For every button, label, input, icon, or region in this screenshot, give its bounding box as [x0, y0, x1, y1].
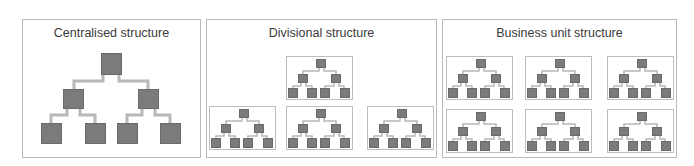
node-leaf [609, 141, 619, 151]
node-leaf [500, 141, 510, 151]
node-mid [652, 74, 662, 83]
node-top [101, 53, 122, 75]
node-leaf [307, 88, 317, 98]
node-leaf [467, 88, 477, 98]
node-mid [254, 124, 264, 133]
business-unit [525, 109, 592, 153]
node-mid [458, 127, 468, 136]
node-leaf [500, 88, 510, 98]
divisional-panel: Divisional structure [206, 19, 437, 158]
division-unit [209, 106, 276, 150]
division-unit [367, 106, 434, 150]
node-mid [221, 124, 231, 133]
node-leaf [546, 88, 556, 98]
node-top [316, 109, 326, 118]
business-unit [607, 56, 674, 100]
node-leaf [160, 123, 181, 144]
node-leaf [467, 141, 477, 151]
node-top [555, 112, 565, 121]
division-unit [286, 56, 353, 100]
centralised-panel: Centralised structure [22, 19, 201, 158]
business-unit-panel: Business unit structure [442, 19, 677, 158]
node-mid [570, 74, 580, 83]
node-top [316, 59, 326, 68]
node-top [637, 59, 647, 68]
node-mid-left [63, 89, 84, 109]
node-leaf [480, 141, 490, 151]
node-leaf [579, 88, 589, 98]
node-mid [619, 74, 629, 83]
node-mid [619, 127, 629, 136]
node-mid [537, 127, 547, 136]
division-unit [286, 106, 353, 150]
node-leaf [211, 138, 221, 148]
business-unit [446, 109, 513, 153]
business-unit [446, 56, 513, 100]
node-leaf [320, 88, 330, 98]
node-leaf [320, 138, 330, 148]
node-leaf [340, 88, 350, 98]
node-leaf [230, 138, 240, 148]
node-leaf [401, 138, 411, 148]
node-leaf [628, 88, 638, 98]
node-leaf [85, 123, 106, 144]
node-leaf [41, 123, 62, 144]
node-mid [331, 74, 341, 83]
node-leaf [340, 138, 350, 148]
node-leaf [243, 138, 253, 148]
node-mid [331, 124, 341, 133]
node-leaf [307, 138, 317, 148]
node-mid [570, 127, 580, 136]
panel-title: Divisional structure [207, 26, 436, 40]
node-leaf [579, 141, 589, 151]
node-leaf [641, 88, 651, 98]
node-leaf [448, 141, 458, 151]
node-leaf [117, 123, 138, 144]
node-leaf [288, 88, 298, 98]
node-leaf [559, 141, 569, 151]
node-top [476, 59, 486, 68]
node-leaf [263, 138, 273, 148]
node-leaf [546, 141, 556, 151]
node-mid [379, 124, 389, 133]
node-top [239, 109, 249, 118]
node-leaf [559, 88, 569, 98]
node-mid [412, 124, 422, 133]
node-leaf [369, 138, 379, 148]
node-top [397, 109, 407, 118]
node-mid [491, 127, 501, 136]
business-unit [525, 56, 592, 100]
node-leaf [609, 88, 619, 98]
node-leaf [641, 141, 651, 151]
node-mid [458, 74, 468, 83]
node-leaf [480, 88, 490, 98]
node-top [637, 112, 647, 121]
node-mid [491, 74, 501, 83]
node-leaf [628, 141, 638, 151]
node-leaf [527, 88, 537, 98]
node-leaf [421, 138, 431, 148]
node-leaf [661, 141, 671, 151]
node-mid [652, 127, 662, 136]
node-top [555, 59, 565, 68]
node-mid-right [138, 89, 159, 109]
node-mid [537, 74, 547, 83]
node-leaf [661, 88, 671, 98]
node-leaf [448, 88, 458, 98]
node-top [476, 112, 486, 121]
panel-title: Business unit structure [443, 26, 676, 40]
node-leaf [527, 141, 537, 151]
business-unit [607, 109, 674, 153]
node-mid [298, 124, 308, 133]
node-leaf [388, 138, 398, 148]
node-leaf [288, 138, 298, 148]
node-mid [298, 74, 308, 83]
